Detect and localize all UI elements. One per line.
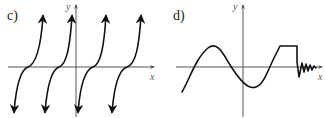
panel-c-branch-2 — [45, 16, 72, 112]
panel-d-curve — [182, 46, 316, 92]
panel-c: c) x y — [7, 1, 155, 117]
panel-c-branch-1 — [14, 16, 43, 112]
panel-c-branch-3 — [78, 16, 106, 112]
panel-d-y-label: y — [232, 1, 238, 12]
panel-d-x-label: x — [317, 71, 323, 82]
graphs-figure: c) x y d) x y — [0, 0, 326, 118]
panel-d-label: d) — [173, 8, 185, 24]
panel-c-x-label: x — [149, 71, 155, 82]
panel-d: d) x y — [173, 1, 323, 117]
panel-c-label: c) — [7, 8, 18, 24]
panel-c-y-label: y — [65, 1, 71, 12]
panel-c-branch-4 — [112, 16, 141, 112]
